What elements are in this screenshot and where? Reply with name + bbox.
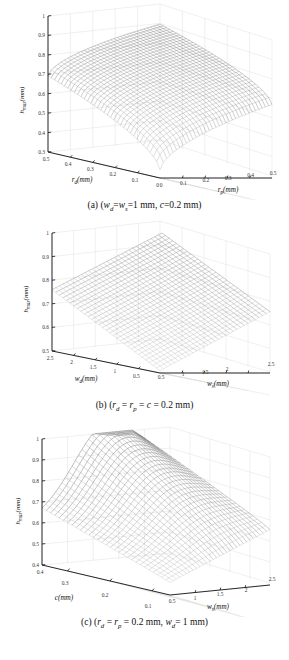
svg-text:1: 1 [42,13,45,19]
panel-b-zticks: 1 0.9 0.8 0.7 0.6 0.5 [42,230,49,354]
panel-a-surface-chart: 1 0.9 0.8 0.7 0.6 0.5 0.4 0.3 0.5 0.4 0.… [0,0,289,200]
svg-text:0.5: 0.5 [43,156,50,162]
svg-text:0.5: 0.5 [32,541,39,547]
panel-c-xaxis-label: c(mm) [55,594,74,602]
svg-text:0.6: 0.6 [32,520,39,526]
svg-text:1.5: 1.5 [202,369,209,375]
svg-text:2: 2 [70,359,73,365]
panel-a-plot: 1 0.9 0.8 0.7 0.6 0.5 0.4 0.3 0.5 0.4 0.… [0,0,289,200]
panel-b: 1 0.9 0.8 0.7 0.6 0.5 2.5 2 1.5 1 0.5 [0,215,289,413]
panel-b-zaxis-label: hmax(mm) [22,285,31,312]
svg-text:2: 2 [245,587,248,593]
svg-text:2.5: 2.5 [47,355,54,361]
panel-b-surface-chart: 1 0.9 0.8 0.7 0.6 0.5 2.5 2 1.5 1 0.5 [0,215,289,400]
svg-text:1.5: 1.5 [90,364,97,370]
svg-text:0.3: 0.3 [87,166,94,172]
svg-text:1: 1 [113,368,116,374]
panel-a-zticks: 1 0.9 0.8 0.7 0.6 0.5 0.4 0.3 [38,13,45,155]
svg-text:0.1: 0.1 [180,180,187,186]
svg-text:0.4: 0.4 [37,569,44,575]
panel-a-xticks: 0.5 0.4 0.3 0.2 0.1 0 [43,156,160,189]
svg-text:0.4: 0.4 [65,161,72,167]
panel-b-axes [52,233,270,373]
panel-c-yaxis-label: ws(mm) [207,603,230,612]
svg-text:0.3: 0.3 [62,580,69,586]
svg-text:0.1: 0.1 [132,177,139,183]
panel-c-mesh [42,430,270,582]
svg-text:1: 1 [194,595,197,601]
panel-c-xtick-marks [68,569,154,591]
svg-text:0.5: 0.5 [42,348,49,354]
panel-c-zticks: 1 0.9 0.8 0.7 0.6 0.5 0.4 [32,436,39,568]
svg-text:0.8: 0.8 [42,277,49,283]
panel-c-zaxis-label: hmax(mm) [14,497,23,524]
panel-b-xtick-marks [74,353,141,368]
panel-c-plot: 1 0.9 0.8 0.7 0.6 0.5 0.4 0.4 0.3 0.2 0.… [0,417,289,617]
svg-text:0.5: 0.5 [270,170,277,176]
panel-b-caption: (b) (rd = rp = c = 0.2 mm) [0,400,289,413]
svg-text:0.2: 0.2 [109,171,116,177]
svg-text:0.5: 0.5 [133,373,140,379]
svg-text:0.4: 0.4 [38,130,45,136]
svg-text:0.9: 0.9 [38,32,45,38]
svg-text:1.5: 1.5 [217,591,224,597]
panel-b-plot: 1 0.9 0.8 0.7 0.6 0.5 2.5 2 1.5 1 0.5 [0,215,289,400]
svg-text:0.5: 0.5 [38,110,45,116]
panel-a-xtick-marks [70,155,139,173]
svg-text:2.5: 2.5 [268,361,275,367]
panel-a-zaxis-label: hmax(mm) [18,86,27,113]
svg-text:0.5: 0.5 [158,374,165,380]
svg-text:0.6: 0.6 [38,91,45,97]
panel-c-xticks: 0.4 0.3 0.2 0.1 [37,569,152,610]
panel-b-mesh [52,233,270,371]
svg-text:0.4: 0.4 [247,172,254,178]
panel-a-yaxis-label: rp(mm) [218,186,239,195]
svg-text:1: 1 [36,436,39,442]
svg-text:2: 2 [226,366,229,372]
svg-text:0.9: 0.9 [32,457,39,463]
svg-text:0.9: 0.9 [42,254,49,260]
svg-text:0.2: 0.2 [102,592,109,598]
svg-text:0: 0 [160,182,163,188]
svg-text:0.8: 0.8 [38,52,45,58]
panel-a-xaxis-label: rd(mm) [72,176,93,185]
panel-b-yticks: 0.5 1 1.5 2 2.5 [158,361,275,380]
svg-text:0.1: 0.1 [145,603,152,609]
panel-a: 1 0.9 0.8 0.7 0.6 0.5 0.4 0.3 0.5 0.4 0.… [0,0,289,213]
panel-c: 1 0.9 0.8 0.7 0.6 0.5 0.4 0.4 0.3 0.2 0.… [0,417,289,630]
panel-b-xaxis-label: wd(mm) [75,375,98,384]
panel-a-caption: (a) (wd=ws=1 mm, c=0.2 mm) [0,200,289,213]
svg-text:0.5: 0.5 [169,598,176,604]
svg-text:1: 1 [46,230,49,236]
svg-text:0.4: 0.4 [32,562,39,568]
panel-c-surface-chart: 1 0.9 0.8 0.7 0.6 0.5 0.4 0.4 0.3 0.2 0.… [0,417,289,617]
panel-a-ztick-marks [48,16,51,152]
svg-text:0.3: 0.3 [38,149,45,155]
panel-a-gridlines [48,4,272,200]
svg-text:0.6: 0.6 [42,324,49,330]
svg-text:2.5: 2.5 [269,576,276,582]
svg-text:0.7: 0.7 [42,301,49,307]
svg-text:0.3: 0.3 [225,175,232,181]
svg-text:0.8: 0.8 [32,478,39,484]
svg-text:0.7: 0.7 [38,71,45,77]
svg-text:0.7: 0.7 [32,499,39,505]
figure-root: 1 0.9 0.8 0.7 0.6 0.5 0.4 0.3 0.5 0.4 0.… [0,0,289,660]
panel-b-yaxis-label: ws(mm) [207,380,230,389]
panel-c-caption: (c) (rd = rp = 0.2 mm, wd= 1 mm) [0,617,289,630]
svg-text:0.2: 0.2 [202,177,209,183]
panel-c-ztick-marks [42,439,45,565]
